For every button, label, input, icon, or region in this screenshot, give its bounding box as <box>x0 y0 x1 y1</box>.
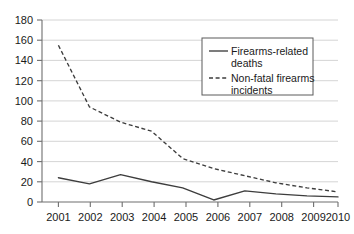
y-axis-label-0: 0 <box>27 196 33 208</box>
legend-label-non-fatal-firearms-incidents-line1: Non-fatal firearms <box>231 72 314 84</box>
y-axis-label-20: 20 <box>21 176 33 188</box>
x-axis-label-2004: 2004 <box>142 211 166 223</box>
x-tick-labels: 2001 2002 2003 2004 2005 2006 2007 2008 … <box>46 211 350 223</box>
x-axis-label-2010: 2010 <box>326 211 350 223</box>
x-axis-label-2007: 2007 <box>238 211 262 223</box>
y-axis-label-180: 180 <box>15 14 33 26</box>
y-axis-label-80: 80 <box>21 115 33 127</box>
legend-label-firearms-related-deaths-line2: deaths <box>231 57 263 69</box>
x-axis-label-2003: 2003 <box>110 211 134 223</box>
legend: Firearms-related deaths Non-fatal firear… <box>202 38 314 96</box>
x-axis-label-2001: 2001 <box>46 211 70 223</box>
line-chart: 180 160 140 120 100 80 60 40 20 0 2001 <box>0 0 354 234</box>
x-axis-label-2005: 2005 <box>174 211 198 223</box>
legend-label-non-fatal-firearms-incidents-line2: incidents <box>231 84 272 96</box>
y-axis-label-120: 120 <box>15 75 33 87</box>
y-axis-label-140: 140 <box>15 54 33 66</box>
legend-label-firearms-related-deaths-line1: Firearms-related <box>231 45 308 57</box>
x-axis-label-2006: 2006 <box>206 211 230 223</box>
x-axis-label-2002: 2002 <box>78 211 102 223</box>
y-axis-label-60: 60 <box>21 135 33 147</box>
y-axis-label-100: 100 <box>15 95 33 107</box>
chart-canvas: 180 160 140 120 100 80 60 40 20 0 2001 <box>0 0 354 234</box>
y-axis-label-40: 40 <box>21 156 33 168</box>
y-axis-label-160: 160 <box>15 34 33 46</box>
x-axis-label-2008: 2008 <box>269 211 293 223</box>
x-axis-label-2009: 2009 <box>301 211 325 223</box>
chart-background <box>0 0 354 234</box>
